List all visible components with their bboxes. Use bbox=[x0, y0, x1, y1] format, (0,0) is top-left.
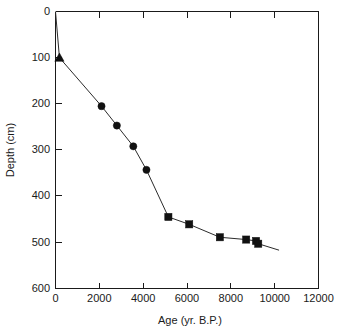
square-data-point bbox=[255, 240, 262, 247]
x-tick-label: 0 bbox=[52, 292, 58, 304]
x-tick-label: 10000 bbox=[259, 292, 290, 304]
x-tick-label: 12000 bbox=[303, 292, 334, 304]
circle-data-point bbox=[130, 143, 137, 150]
x-tick-label: 4000 bbox=[131, 292, 155, 304]
chart-figure: 0 100 200 300 400 500 600 0 2000 4000 60… bbox=[0, 0, 337, 332]
x-tick-label: 8000 bbox=[219, 292, 243, 304]
y-tick-label: 500 bbox=[32, 236, 50, 248]
y-tick-label: 400 bbox=[32, 189, 50, 201]
x-axis-title: Age (yr. B.P.) bbox=[158, 314, 222, 326]
circle-data-point bbox=[143, 166, 150, 173]
y-axis-title: Depth (cm) bbox=[4, 123, 16, 177]
y-tick-label: 200 bbox=[32, 97, 50, 109]
x-tick-label: 2000 bbox=[87, 292, 111, 304]
x-tick-label: 6000 bbox=[175, 292, 199, 304]
square-data-point bbox=[216, 234, 223, 241]
circle-data-point bbox=[98, 103, 105, 110]
chart-background bbox=[0, 0, 337, 332]
y-tick-label: 600 bbox=[32, 282, 50, 294]
y-tick-label: 300 bbox=[32, 143, 50, 155]
square-data-point bbox=[165, 213, 172, 220]
circle-data-point bbox=[113, 122, 120, 129]
y-tick-label: 100 bbox=[32, 51, 50, 63]
age-depth-plot: 0 100 200 300 400 500 600 0 2000 4000 60… bbox=[0, 0, 337, 332]
square-data-point bbox=[186, 221, 193, 228]
square-data-point bbox=[243, 236, 250, 243]
y-tick-label: 0 bbox=[44, 5, 50, 17]
